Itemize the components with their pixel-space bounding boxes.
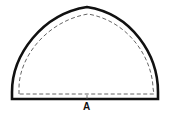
piece-label: A bbox=[83, 102, 90, 112]
cutting-line-outline bbox=[12, 7, 158, 99]
